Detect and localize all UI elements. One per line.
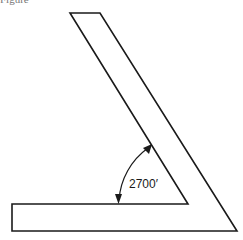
angle-arc	[119, 148, 148, 200]
figure-diagram: 2700′	[0, 0, 243, 240]
angle-label: 2700′	[129, 177, 159, 191]
arrowhead-top-icon	[143, 144, 152, 154]
arrowhead-bottom-icon	[115, 194, 122, 204]
bent-bar-outline	[12, 13, 237, 231]
